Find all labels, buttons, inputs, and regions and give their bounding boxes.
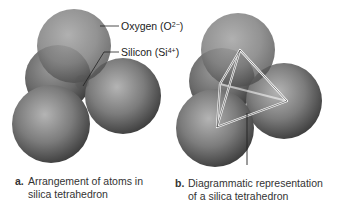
caption-b-letter: b.: [175, 177, 184, 190]
oxygen-label-name: Oxygen: [121, 20, 157, 32]
silicon-label-close: ): [176, 46, 180, 58]
oxygen-atom-top: [37, 9, 111, 83]
caption-a: a. Arrangement of atoms in silica tetrah…: [15, 175, 165, 203]
panel-b-atoms: [176, 13, 322, 167]
silicon-atom: [75, 75, 89, 89]
oxygen-atom-bottom: [176, 89, 254, 167]
caption-a-letter: a.: [15, 175, 24, 188]
silicon-label-name: Silicon: [121, 46, 152, 58]
caption-b: b. Diagrammatic representation of a sili…: [175, 177, 335, 205]
caption-a-line2: silica tetrahedron: [28, 188, 108, 201]
oxygen-atom-bottom: [12, 85, 90, 163]
caption-a-line1: Arrangement of atoms in: [28, 175, 143, 188]
oxygen-label-charge: 2−: [172, 21, 180, 28]
oxygen-label-symbol: (O: [160, 20, 172, 32]
oxygen-label: Oxygen (O2−): [121, 20, 183, 32]
caption-b-line1: Diagrammatic representation: [188, 177, 323, 190]
silicon-label-symbol: (Si: [155, 46, 168, 58]
silicon-label-charge: 4+: [168, 47, 176, 54]
silicon-label: Silicon (Si4+): [121, 46, 179, 58]
caption-b-line2: of a silica tetrahedron: [188, 190, 288, 203]
oxygen-label-close: ): [180, 20, 184, 32]
panel-a-atoms: [12, 9, 161, 163]
